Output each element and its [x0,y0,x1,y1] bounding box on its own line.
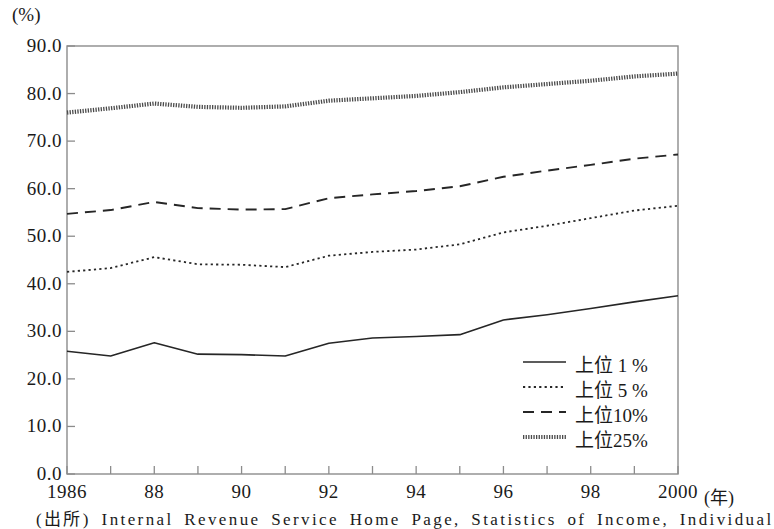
legend-label-top10: 上位10% [575,400,648,427]
legend-swatch-group [523,362,566,437]
legend-label-top1: 上位 1 % [575,350,648,377]
series-line-1 [67,296,678,356]
series-line-3 [67,154,678,213]
legend-label-top5: 上位 5 % [575,375,648,402]
data-series-group [67,74,678,356]
source-note: (出所) Internal Revenue Service Home Page,… [36,505,774,529]
series-line-2 [67,206,678,272]
series-line-4 [67,74,678,113]
legend-label-top25: 上位25% [575,425,648,452]
